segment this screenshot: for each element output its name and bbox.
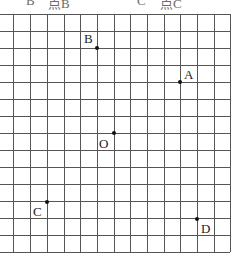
point-b-dot: [95, 46, 99, 50]
point-c-dot: [45, 200, 49, 204]
point-d-dot: [195, 217, 199, 221]
point-o-label: O: [99, 137, 108, 150]
point-d-label: D: [201, 222, 210, 235]
point-c-label: C: [33, 205, 42, 218]
point-o-dot: [112, 131, 116, 135]
coordinate-grid: [0, 0, 235, 258]
point-a-label: A: [184, 68, 193, 81]
point-a-dot: [178, 80, 182, 84]
point-b-label: B: [84, 32, 93, 45]
